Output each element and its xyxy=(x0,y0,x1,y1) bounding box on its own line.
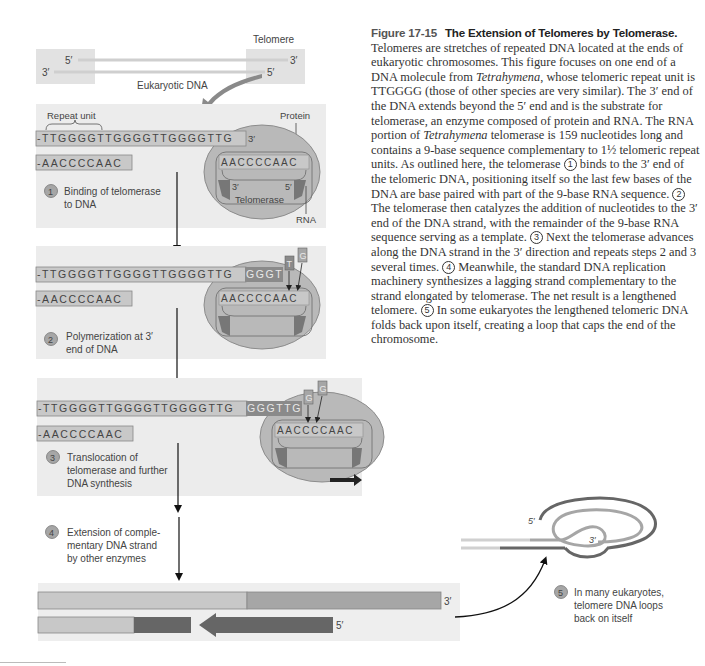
step2-desc-2: end of DNA xyxy=(66,344,118,355)
step2-top-strand: -TTGGGGTTGGGGTTGGGGTTG xyxy=(37,268,233,280)
left-top-end: 5′ xyxy=(65,55,73,66)
step5-desc-1: In many eukaryotes, xyxy=(574,587,664,598)
rna-label: RNA xyxy=(296,214,317,225)
lengthened-telomere-panel: 3′ 5′ xyxy=(38,583,460,641)
step3-bottom-strand: -AACCCCAAC xyxy=(38,428,123,440)
rna-template: AACCCCAAC xyxy=(221,157,298,168)
step3-number: 3 xyxy=(50,453,55,463)
step5-number: 5 xyxy=(558,588,563,598)
step5-label: 5 In many eukaryotes, telomere DNA loops… xyxy=(555,586,665,625)
incoming-G: G xyxy=(320,384,329,394)
step1-top-end: 3′ xyxy=(248,133,255,144)
footer-rule xyxy=(0,662,66,663)
figure-number: Figure 17-15 xyxy=(371,26,437,39)
step2-new-bases: GGGT xyxy=(246,268,283,280)
step4-desc-2: mentary DNA strand xyxy=(67,540,157,551)
step-ref-5: 5 xyxy=(421,304,434,317)
step1-top-strand: -TTGGGGTTGGGGTTGGGGTTG xyxy=(37,132,233,144)
step1-number: 1 xyxy=(48,187,53,197)
step4-label: 4 Extension of comple- mentary DNA stran… xyxy=(46,526,161,565)
step2-panel: AACCCCAAC -TTGGGGTTGGGGTTGGGGTTG GGGT T … xyxy=(36,246,326,359)
incoming-G: G xyxy=(306,393,315,403)
left-bottom-end: 3′ xyxy=(42,67,50,78)
step1-desc-1: Binding of telomerase xyxy=(64,186,161,197)
species-name: Tetrahymena xyxy=(476,70,540,84)
step3-panel: AACCCCAAC -TTGGGGTTGGGGTTGGGGTTG GGGTTG … xyxy=(37,378,384,496)
rna-3-end: 3′ xyxy=(232,182,239,192)
t-loop: 5′ 3′ xyxy=(461,498,655,557)
step4-bottom-end: 5′ xyxy=(336,620,344,631)
step4-desc-1: Extension of comple- xyxy=(67,527,160,538)
rna-5-end: 5′ xyxy=(285,182,292,192)
telomere-label: Telomere xyxy=(253,34,295,45)
figure-caption: Figure 17-15The Extension of Telomeres b… xyxy=(371,26,701,347)
step-ref-1: 1 xyxy=(564,158,577,171)
step4-desc-3: by other enzymes xyxy=(67,553,146,564)
step-ref-4: 4 xyxy=(442,261,455,274)
loop-5-end: 5′ xyxy=(528,516,535,526)
step5-desc-3: back on itself xyxy=(574,613,633,624)
step3-desc-2: telomerase and further xyxy=(67,465,168,476)
repeat-unit-label: Repeat unit xyxy=(47,110,96,121)
incoming-G: G xyxy=(300,251,309,261)
step5-desc-2: telomere DNA loops xyxy=(574,600,663,611)
incoming-T: T xyxy=(287,259,294,269)
step1-panel: Repeat unit Protein AACCCCAAC 3′ 5′ Telo… xyxy=(36,104,326,228)
loop-3-end: 3′ xyxy=(589,535,596,545)
rna-template: AACCCCAAC xyxy=(277,425,354,436)
step3-top-strand: -TTGGGGTTGGGGTTGGGGTTG xyxy=(38,402,234,414)
curved-arrow-to-loop xyxy=(455,560,545,617)
step2-desc-1: Polymerization at 3′ xyxy=(66,331,153,342)
step4-top-end: 3′ xyxy=(444,596,452,607)
step1-bottom-strand: -AACCCCAAC xyxy=(37,157,122,169)
rna-template: AACCCCAAC xyxy=(221,293,298,304)
step3-new-bases: GGGTTG xyxy=(247,402,302,414)
figure-title: The Extension of Telomeres by Telomerase… xyxy=(445,26,677,39)
species-name: Tetrahymena xyxy=(423,128,487,142)
step3-desc-1: Translocation of xyxy=(67,452,138,463)
step-ref-3: 3 xyxy=(530,231,543,244)
right-bottom-end: 5′ xyxy=(267,67,275,78)
step3-desc-3: DNA synthesis xyxy=(67,478,132,489)
step4-number: 4 xyxy=(49,528,54,538)
protein-label: Protein xyxy=(280,110,310,121)
step2-number: 2 xyxy=(48,335,53,345)
telomerase-label: Telomerase xyxy=(235,194,284,205)
eukaryotic-dna-label: Eukaryotic DNA xyxy=(137,80,208,91)
step1-desc-2: to DNA xyxy=(64,199,97,210)
step2-bottom-strand: -AACCCCAAC xyxy=(37,293,122,305)
right-top-end: 3′ xyxy=(290,55,298,66)
step-ref-2: 2 xyxy=(672,188,685,201)
